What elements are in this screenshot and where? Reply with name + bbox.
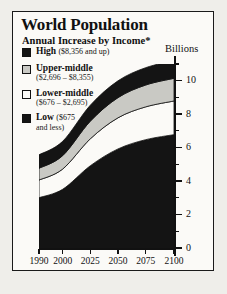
y-tick-major [174,214,182,216]
y-axis-line [174,56,176,256]
x-tick [117,249,118,254]
chart-figure: World Population Annual Increase by Inco… [12,11,214,271]
stacked-area-plot [39,64,174,249]
y-tick-major [174,147,182,149]
y-tick-minor [174,130,179,131]
y-tick-label: 10 [186,74,196,85]
x-tick [62,249,63,254]
y-tick-major [174,113,182,115]
y-tick-minor [174,197,179,198]
y-tick-label: 4 [186,175,191,186]
y-tick-label: 6 [186,141,191,152]
x-tick [90,249,91,254]
x-tick-label: 2050 [103,256,133,266]
y-tick-minor [174,164,179,165]
legend-swatch-upper-middle-icon [22,65,31,74]
chart-title: World Population [21,15,148,35]
y-tick-major [174,247,182,249]
x-tick [173,249,174,254]
x-tick-label: 2075 [131,256,161,266]
y-axis-title: Billions [165,43,198,54]
y-tick-minor [174,231,179,232]
legend-swatch-low-icon [22,114,31,123]
x-tick-label: 2100 [159,256,189,266]
x-tick-label: 2000 [48,256,78,266]
y-tick-major [174,180,182,182]
x-tick [38,249,39,254]
legend-swatch-lower-middle-icon [22,90,31,99]
y-tick-label: 8 [186,108,191,119]
plot-area [39,64,174,249]
chart-subtitle: Annual Increase by Income* [22,35,150,46]
chart-footnote: *US dollars [22,268,55,271]
x-tick [145,249,146,254]
legend-swatch-high-icon [22,48,31,57]
x-tick-label: 2025 [75,256,105,266]
y-tick-label: 2 [186,208,191,219]
y-tick-minor [174,97,179,98]
y-tick-major [174,80,182,82]
x-axis-line [39,248,175,250]
legend-label-high: High ($8,356 and up) [36,46,109,56]
y-tick-minor [174,63,179,64]
y-tick-label: 0 [186,242,191,253]
